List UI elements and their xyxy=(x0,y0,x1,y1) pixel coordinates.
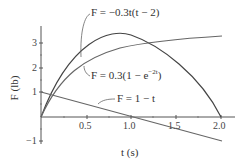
curve2-label: F = 0.3(1 − e−2t) xyxy=(91,68,161,81)
curve3-label: F = 1 − t xyxy=(117,92,155,104)
y-tick-1: 1 xyxy=(32,86,37,97)
x-tick-1.5: 1.5 xyxy=(168,120,181,131)
x-tick-2.0: 2.0 xyxy=(213,120,226,131)
y-tick-neg1: −1 xyxy=(26,135,37,146)
x-axis-label: t (s) xyxy=(121,146,138,158)
x-tick-1.0: 1.0 xyxy=(123,120,136,131)
y-tick-3: 3 xyxy=(32,37,37,48)
y-axis-label: F (lb) xyxy=(8,76,20,101)
curve1-label: F = −0.3t(t − 2) xyxy=(91,6,159,18)
x-tick-0.5: 0.5 xyxy=(79,120,92,131)
y-tick-2: 2 xyxy=(32,62,37,73)
